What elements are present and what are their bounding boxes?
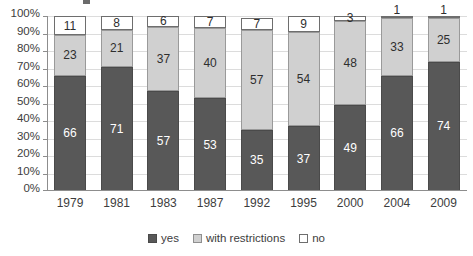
y-axis-tick-80: 80% (0, 43, 40, 55)
legend-item-yes[interactable]: yes (148, 232, 179, 244)
bar-group-1981[interactable]: 71 21 8 (101, 16, 133, 191)
segment-restrictions[interactable]: 40 (194, 28, 226, 98)
x-axis-label-1983: 1983 (140, 196, 186, 210)
legend-label-with-restrictions: with restrictions (206, 232, 285, 244)
segment-restrictions[interactable]: 25 (428, 18, 460, 62)
bar-group-2000[interactable]: 49 48 3 (334, 16, 366, 191)
x-axis-label-1992: 1992 (234, 196, 280, 210)
segment-no-label: 1 (381, 4, 413, 16)
legend-label-yes: yes (161, 232, 179, 244)
segment-no[interactable]: 7 (241, 18, 273, 30)
segment-no-label: 3 (334, 12, 366, 24)
segment-yes[interactable]: 66 (381, 76, 413, 192)
x-axis-label-1987: 1987 (187, 196, 233, 210)
segment-yes[interactable]: 35 (241, 130, 273, 191)
y-axis-tick-20: 20% (0, 148, 40, 160)
segment-restrictions[interactable]: 54 (288, 32, 320, 127)
segment-no-label: 1 (428, 4, 460, 16)
legend-swatch-no-icon (299, 234, 308, 243)
legend-label-no: no (312, 232, 325, 244)
y-axis-tick-60: 60% (0, 78, 40, 90)
segment-no[interactable]: 7 (194, 16, 226, 28)
x-axis-label-1981: 1981 (94, 196, 140, 210)
legend-swatch-yes-icon (148, 234, 157, 243)
segment-yes[interactable]: 37 (288, 126, 320, 191)
bar-group-2009[interactable]: 74 25 1 (428, 16, 460, 191)
x-axis-label-1995: 1995 (281, 196, 327, 210)
segment-yes[interactable]: 71 (101, 67, 133, 191)
segment-yes[interactable]: 53 (194, 98, 226, 191)
segment-yes[interactable]: 66 (54, 76, 86, 192)
bar-group-1987[interactable]: 53 40 7 (194, 16, 226, 191)
bar-group-1992[interactable]: 35 57 7 (241, 16, 273, 191)
y-axis: 100% 90% 80% 70% 60% 50% 40% 30% 20% 10%… (0, 8, 40, 198)
stacked-bar-chart: 100% 90% 80% 70% 60% 50% 40% 30% 20% 10%… (0, 0, 473, 256)
y-axis-tick-40: 40% (0, 113, 40, 125)
plot-area: 66 23 11 71 21 8 57 37 6 53 40 7 35 57 7 (47, 16, 467, 191)
bar-group-1979[interactable]: 66 23 11 (54, 16, 86, 191)
segment-yes[interactable]: 49 (334, 105, 366, 191)
bar-group-1983[interactable]: 57 37 6 (147, 16, 179, 191)
segment-no[interactable]: 9 (288, 16, 320, 32)
x-axis-label-2009: 2009 (421, 196, 467, 210)
chart-legend: yes with restrictions no (0, 232, 473, 244)
segment-yes[interactable]: 57 (147, 91, 179, 191)
segment-restrictions[interactable]: 23 (54, 35, 86, 75)
y-axis-tick-10: 10% (0, 166, 40, 178)
segment-restrictions[interactable]: 48 (334, 21, 366, 105)
x-axis: 1979 1981 1983 1987 1992 1995 2000 2004 … (47, 196, 467, 216)
x-axis-label-1979: 1979 (47, 196, 93, 210)
y-axis-line (47, 16, 48, 191)
y-axis-tick-90: 90% (0, 26, 40, 38)
segment-no[interactable]: 6 (147, 16, 179, 27)
segment-no[interactable]: 11 (54, 16, 86, 35)
segment-no[interactable]: 8 (101, 16, 133, 30)
x-axis-label-2000: 2000 (327, 196, 373, 210)
bar-group-2004[interactable]: 66 33 1 (381, 16, 413, 191)
segment-yes[interactable]: 74 (428, 62, 460, 192)
x-axis-label-2004: 2004 (374, 196, 420, 210)
legend-item-with-restrictions[interactable]: with restrictions (193, 232, 285, 244)
bar-group-1995[interactable]: 37 54 9 (288, 16, 320, 191)
legend-swatch-restrictions-icon (193, 234, 202, 243)
y-axis-tick-50: 50% (0, 96, 40, 108)
segment-restrictions[interactable]: 33 (381, 18, 413, 76)
y-axis-tick-30: 30% (0, 131, 40, 143)
cropped-title-remnant (83, 0, 90, 4)
y-axis-tick-70: 70% (0, 61, 40, 73)
segment-restrictions[interactable]: 21 (101, 30, 133, 67)
x-axis-line (47, 190, 467, 191)
y-axis-tick-100: 100% (0, 8, 40, 20)
y-axis-tick-0: 0% (0, 183, 40, 195)
legend-item-no[interactable]: no (299, 232, 325, 244)
segment-restrictions[interactable]: 37 (147, 27, 179, 92)
segment-restrictions[interactable]: 57 (241, 30, 273, 130)
